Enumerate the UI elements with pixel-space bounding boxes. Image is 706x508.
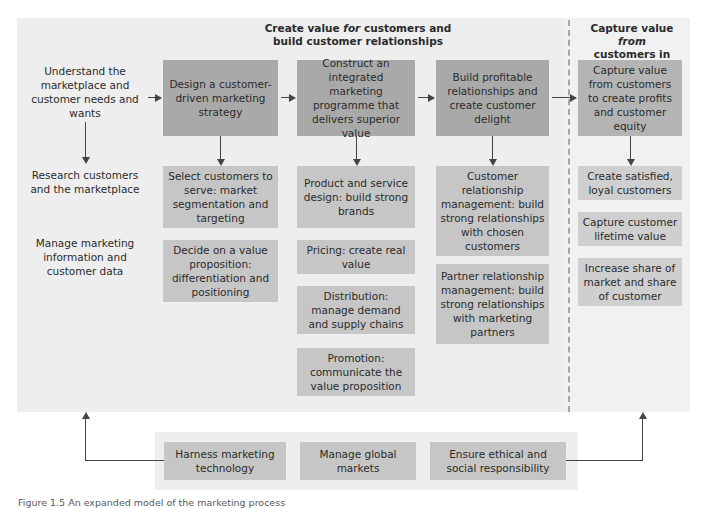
box-decide-value-proposition: Decide on a value proposition: different… <box>163 240 278 302</box>
heading-create-value-part1: Create value <box>265 22 344 34</box>
step-manage-marketing-information: Manage marketing information and custome… <box>22 236 148 278</box>
arrow-understand-to-research <box>85 122 86 158</box>
heading-create-value: Create value for customers and build cus… <box>163 22 553 48</box>
heading-create-value-line2: build customer relationships <box>273 35 443 47</box>
box-distribution: Distribution: manage demand and supply c… <box>297 286 415 334</box>
feedback-arrow-left-up <box>85 418 86 461</box>
box-build-profitable-relationships: Build profitable relationships and creat… <box>436 60 549 136</box>
arrow-construct-to-build <box>418 97 434 98</box>
box-create-satisfied-loyal-customers: Create satisfied, loyal customers <box>578 166 682 200</box>
box-promotion: Promotion: communicate the value proposi… <box>297 348 415 396</box>
arrow-build-to-crm <box>492 136 493 160</box>
feedback-arrow-right-up <box>642 418 643 461</box>
arrow-construct-to-product <box>356 136 357 160</box>
box-pricing: Pricing: create real value <box>297 240 415 274</box>
heading-create-value-part2: customers and <box>360 22 451 34</box>
section-divider <box>568 20 570 412</box>
arrow-design-to-construct <box>281 97 295 98</box>
box-ensure-ethical-social-responsibility: Ensure ethical and social responsibility <box>430 442 566 480</box>
box-construct-marketing-programme: Construct an integrated marketing progra… <box>297 60 415 136</box>
box-manage-global-markets: Manage global markets <box>300 442 416 480</box>
arrow-build-to-capture <box>552 97 576 98</box>
box-select-customers-to-serve: Select customers to serve: market segmen… <box>163 166 278 228</box>
box-harness-marketing-technology: Harness marketing technology <box>164 442 286 480</box>
box-product-service-design: Product and service design: build strong… <box>297 166 415 228</box>
arrow-design-to-select <box>220 136 221 160</box>
heading-create-value-italic: for <box>343 22 360 34</box>
figure-caption: Figure 1.5 An expanded model of the mark… <box>18 497 285 508</box>
arrow-capture-to-satisfied <box>630 136 631 160</box>
box-capture-customer-lifetime-value: Capture customer lifetime value <box>578 212 682 246</box>
box-capture-value-from-customers: Capture value from customers to create p… <box>578 60 682 136</box>
arrow-understand-to-design <box>148 97 161 98</box>
heading-capture-value-italic: from <box>618 35 646 47</box>
feedback-line-left-horizontal <box>85 460 164 461</box>
box-design-marketing-strategy: Design a customer-driven marketing strat… <box>163 60 278 136</box>
feedback-line-right-horizontal <box>566 460 643 461</box>
heading-capture-value-part1: Capture value <box>591 22 674 34</box>
step-understand-marketplace: Understand the marketplace and customer … <box>26 64 144 120</box>
box-increase-share-of-market: Increase share of market and share of cu… <box>578 258 682 306</box>
box-customer-relationship-management: Customer relationship management: build … <box>436 166 549 256</box>
box-partner-relationship-management: Partner relationship management: build s… <box>436 264 549 344</box>
step-research-customers: Research customers and the marketplace <box>26 168 144 196</box>
